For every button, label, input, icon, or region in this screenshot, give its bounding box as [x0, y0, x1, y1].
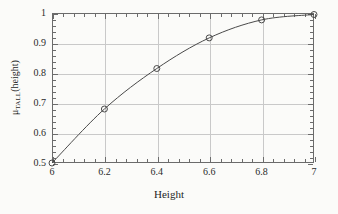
- axis-tick: [315, 157, 316, 162]
- y-axis-title-mu: μ: [9, 110, 20, 115]
- y-axis-title-arg: (height): [9, 60, 20, 92]
- x-tick-label: 6.8: [255, 167, 268, 177]
- x-tick-label: 6.4: [151, 167, 164, 177]
- x-tick-label: 7: [312, 167, 317, 177]
- x-tick-label: 6.2: [98, 167, 111, 177]
- data-line: [52, 15, 314, 164]
- y-axis-title-subscript: TALL: [14, 92, 22, 110]
- y-tick-label: 0.9: [34, 38, 47, 48]
- x-axis-title: Height: [0, 188, 338, 200]
- axis-tick: [308, 164, 313, 165]
- x-tick-label: 6: [50, 167, 55, 177]
- chart-screenshot: 0.50.60.70.80.91 66.26.46.66.87 Height μ…: [0, 0, 338, 214]
- x-tick-label: 6.6: [203, 167, 216, 177]
- y-tick-label: 0.6: [34, 128, 47, 138]
- y-tick-label: 0.7: [34, 98, 47, 108]
- y-tick-label: 0.8: [34, 68, 47, 78]
- data-layer: [52, 13, 314, 163]
- y-axis-title: μTALL(height): [9, 28, 20, 148]
- y-tick-label: 0.5: [34, 158, 47, 168]
- y-tick-label: 1: [41, 8, 46, 18]
